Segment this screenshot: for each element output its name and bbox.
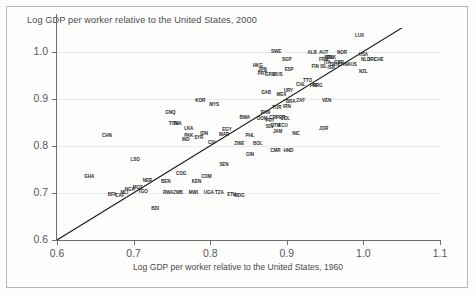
data-point-label: CHN xyxy=(102,133,112,138)
gridline-y xyxy=(57,99,440,100)
data-point-label: SWE xyxy=(271,48,281,53)
data-point-label: SEN xyxy=(219,161,228,166)
data-point-label: COM xyxy=(201,174,211,179)
data-point-label: UGA xyxy=(204,189,214,194)
data-point-label: BDI xyxy=(151,205,159,210)
data-point-label: GRC xyxy=(265,72,275,77)
x-tick-mark xyxy=(363,240,364,245)
data-point-label: RWA xyxy=(163,189,173,194)
x-tick-label: 0.8 xyxy=(190,247,230,259)
data-point-label: IND xyxy=(182,136,190,141)
data-point-label: JAM xyxy=(273,128,282,133)
data-point-label: MDG xyxy=(234,193,244,198)
data-point-label: ECU xyxy=(278,122,287,127)
data-point-label: GNQ xyxy=(165,109,175,114)
data-point-label: ISL xyxy=(320,63,327,68)
data-point-label: CHE xyxy=(374,56,383,61)
data-point-label: ARG xyxy=(312,83,322,88)
y-tick-mark xyxy=(52,146,57,147)
data-point-label: ZAF xyxy=(296,97,305,102)
y-tick-mark xyxy=(52,52,57,53)
x-tick-mark xyxy=(440,240,441,245)
data-point-label: ZWE xyxy=(234,141,244,146)
data-point-label: NER xyxy=(143,177,152,182)
x-tick-mark xyxy=(134,240,135,245)
x-tick-label: 0.9 xyxy=(267,247,307,259)
data-point-label: LKA xyxy=(184,125,193,130)
data-point-label: GHA xyxy=(84,174,94,179)
data-point-label: GAB xyxy=(261,89,271,94)
data-point-label: TUN xyxy=(169,121,178,126)
data-point-label: COL xyxy=(281,116,290,121)
data-point-label: NOR xyxy=(337,49,347,54)
x-tick-mark xyxy=(287,240,288,245)
gridline-y xyxy=(57,146,440,147)
x-axis-line xyxy=(56,240,440,241)
y-tick-label: 0.8 xyxy=(8,139,48,151)
gridline-y xyxy=(57,52,440,53)
y-tick-mark xyxy=(52,99,57,100)
data-point-label: CAF xyxy=(115,193,124,198)
data-point-label: MWI xyxy=(189,189,198,194)
y-tick-label: 0.7 xyxy=(8,186,48,198)
data-point-label: BEN xyxy=(161,179,170,184)
x-axis-title: Log GDP per worker relative to the Unite… xyxy=(0,262,476,272)
data-point-label: CAN xyxy=(338,62,348,67)
y-tick-mark xyxy=(52,193,57,194)
x-tick-label: 1.1 xyxy=(420,247,460,259)
data-point-label: FIN xyxy=(312,63,319,68)
y-tick-label: 0.9 xyxy=(8,92,48,104)
data-point-label: MEX xyxy=(277,91,287,96)
data-point-label: AUS xyxy=(347,62,356,67)
data-point-label: PHL xyxy=(246,133,255,138)
x-tick-mark xyxy=(57,240,58,245)
data-point-label: BWA xyxy=(239,114,249,119)
data-point-label: ZMB xyxy=(173,189,183,194)
data-point-label: CIV xyxy=(208,140,215,145)
x-tick-label: 0.7 xyxy=(114,247,154,259)
data-point-label: KOR xyxy=(195,97,205,102)
data-point-label: IRN xyxy=(283,103,291,108)
data-point-label: TGO xyxy=(138,188,148,193)
data-point-label: JOR xyxy=(319,125,328,130)
data-point-label: CMR xyxy=(270,147,280,152)
plot-area: 0.60.70.80.91.0 0.60.70.80.91.01.1 LUXUS… xyxy=(57,28,440,240)
data-point-label: TZA xyxy=(215,189,224,194)
x-tick-mark xyxy=(210,240,211,245)
data-point-label: NZL xyxy=(359,69,368,74)
y-axis-line xyxy=(56,14,57,240)
x-tick-label: 0.6 xyxy=(37,247,77,259)
data-point-label: ESP xyxy=(285,67,294,72)
y-tick-label: 1.0 xyxy=(8,45,48,57)
x-tick-label: 1.0 xyxy=(343,247,383,259)
data-point-label: DOM xyxy=(257,116,267,121)
data-point-label: HND xyxy=(284,147,294,152)
data-point-label: SGP xyxy=(282,56,291,61)
data-point-label: LUX xyxy=(355,33,364,38)
data-point-label: SYR xyxy=(194,135,203,140)
data-point-label: VEN xyxy=(322,97,331,102)
y-tick-label: 0.6 xyxy=(8,233,48,245)
data-point-label: AUT xyxy=(319,49,328,54)
data-point-label: MYS xyxy=(209,102,219,107)
data-point-label: BOL xyxy=(253,141,262,146)
data-point-label: KEN xyxy=(192,179,201,184)
data-point-label: GIN xyxy=(246,152,254,157)
data-point-label: MAR xyxy=(219,132,229,137)
chart-figure: Log GDP per worker relative to the Unite… xyxy=(0,0,476,296)
data-point-label: NIC xyxy=(292,130,300,135)
data-point-label: CHL xyxy=(296,81,305,86)
data-point-label: TUR xyxy=(272,105,281,110)
data-point-label: COG xyxy=(176,171,186,176)
data-point-label: LSO xyxy=(131,156,140,161)
data-point-label: ALB xyxy=(307,49,316,54)
chart-title: Log GDP per worker relative to the Unite… xyxy=(27,15,257,25)
data-point-label: ISR xyxy=(328,64,335,69)
